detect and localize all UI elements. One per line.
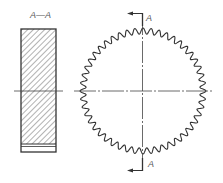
arrowhead-left-icon [127, 12, 133, 16]
front-view [74, 13, 212, 171]
section-hatch-area [21, 29, 56, 144]
cut-letter-top: A [145, 13, 152, 23]
cutting-plane-bottom: A [127, 158, 154, 173]
cut-letter-bottom: A [147, 159, 154, 169]
gear-technical-drawing: A—A A A [0, 0, 223, 183]
section-label: A—A [29, 10, 51, 20]
arrowhead-left-icon [127, 169, 133, 173]
section-view [14, 29, 63, 152]
cutting-plane-top: A [127, 12, 152, 27]
